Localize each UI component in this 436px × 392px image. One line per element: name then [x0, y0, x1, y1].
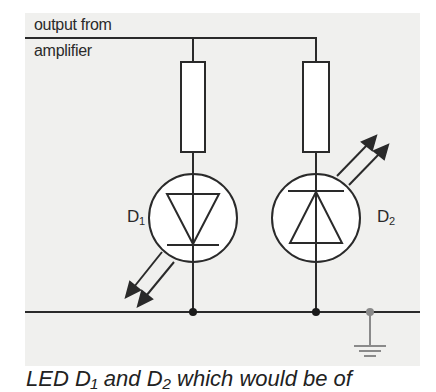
- resistor-r2: [303, 62, 329, 152]
- junction-dot-left: [189, 308, 197, 316]
- led-d1: [149, 174, 237, 262]
- figure-caption: LED D₁ and D₂ which would be of: [26, 366, 352, 392]
- led-d2-label: D2: [377, 207, 395, 227]
- led-d1-label: D1: [127, 207, 145, 227]
- resistor-r1: [181, 62, 205, 152]
- input-label-line2: amplifier: [34, 42, 92, 60]
- junction-dot-right: [312, 308, 320, 316]
- input-label-line1: output from: [34, 16, 112, 34]
- led-d2: [272, 174, 360, 262]
